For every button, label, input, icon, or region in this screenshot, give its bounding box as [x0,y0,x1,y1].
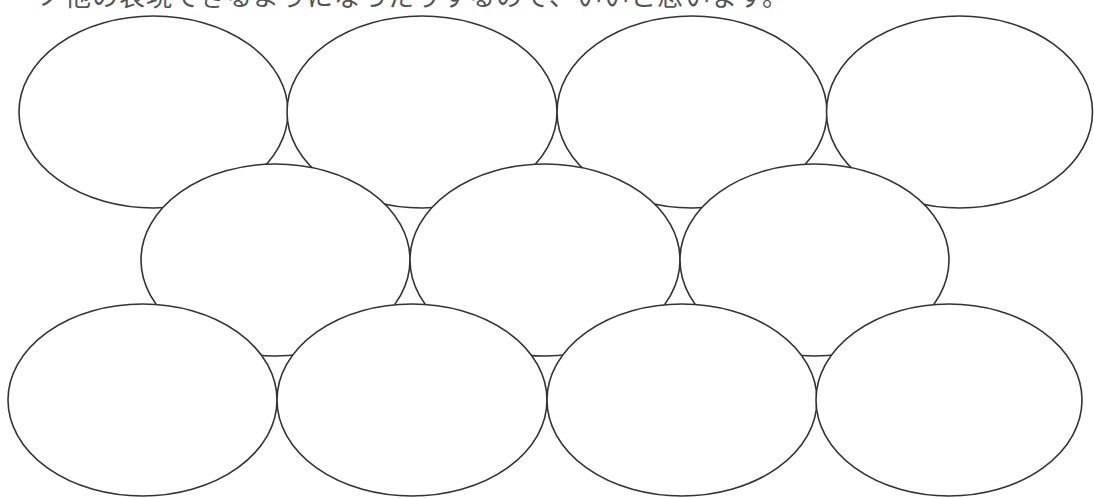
bottom-row-ellipse-1 [8,304,277,496]
ellipse-grid-diagram [0,0,1094,498]
middle-row [141,164,949,356]
bottom-row-ellipse-4 [816,304,1082,496]
bottom-row-ellipse-2 [277,304,547,496]
bottom-row-ellipse-3 [547,304,817,496]
